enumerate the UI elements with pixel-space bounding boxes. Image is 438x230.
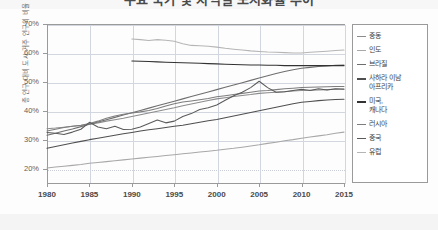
x-axis-tick-label: 2005 xyxy=(239,190,279,199)
x-axis-tick xyxy=(344,183,345,187)
y-axis-tick xyxy=(43,140,47,141)
legend-color-swatch xyxy=(357,78,366,80)
y-axis-tick xyxy=(43,169,47,170)
legend-item-label: 브라질 xyxy=(369,59,387,68)
legend-item[interactable]: 미국, 캐나다 xyxy=(357,96,427,114)
x-axis-tick-label: 2010 xyxy=(282,190,322,199)
legend-item-label: 사하라 이남 아프리카 xyxy=(369,73,401,91)
x-axis-tick xyxy=(217,183,218,187)
legend-item-label: 인도 xyxy=(369,45,381,54)
x-axis-tick-label: 2015 xyxy=(324,190,364,199)
legend-item[interactable]: 유럽 xyxy=(357,147,427,156)
series-layer xyxy=(47,24,344,183)
legend-item-label: 미국, 캐나다 xyxy=(369,96,387,114)
x-axis-tick-label: 1995 xyxy=(154,190,194,199)
chart-container: 주요 국가 및 지역별 도시화율 추이 총 인구 대비 도시 거주 인구의 비율… xyxy=(0,0,438,230)
series-line xyxy=(47,132,344,168)
legend-item[interactable]: 러시아 xyxy=(357,119,427,128)
gridline-vertical xyxy=(345,25,346,184)
y-axis-tick-label: 70% xyxy=(5,19,39,28)
legend-color-swatch xyxy=(357,50,366,51)
x-axis-tick xyxy=(302,183,303,187)
y-axis-tick-label: 20% xyxy=(5,164,39,173)
y-axis-tick-label: 50% xyxy=(5,77,39,86)
x-axis-tick-label: 2000 xyxy=(197,190,237,199)
series-line xyxy=(47,81,344,134)
legend-color-swatch xyxy=(357,124,366,125)
x-axis-tick xyxy=(259,183,260,187)
legend-item-label: 중동 xyxy=(369,31,381,40)
legend-color-swatch xyxy=(357,64,366,65)
legend-color-swatch xyxy=(357,152,366,153)
x-axis-tick-label: 1990 xyxy=(112,190,152,199)
legend-color-swatch xyxy=(357,36,366,37)
x-axis-tick xyxy=(89,183,90,187)
y-axis-tick xyxy=(43,82,47,83)
x-axis-tick-label: 1980 xyxy=(27,190,67,199)
x-axis-tick-label: 1985 xyxy=(69,190,109,199)
y-axis-tick-label: 40% xyxy=(5,106,39,115)
y-axis-tick-label: 60% xyxy=(5,48,39,57)
legend-color-swatch xyxy=(357,138,366,139)
series-line xyxy=(132,39,344,53)
x-axis-tick xyxy=(47,183,48,187)
legend-item[interactable]: 인도 xyxy=(357,45,427,54)
y-axis-tick xyxy=(43,111,47,112)
chart-title: 주요 국가 및 지역별 도시화율 추이 xyxy=(0,0,438,8)
chart-title-strip: 주요 국가 및 지역별 도시화율 추이 xyxy=(0,0,438,9)
legend-item-label: 중국 xyxy=(369,133,381,142)
series-line xyxy=(132,61,344,66)
y-axis-tick xyxy=(43,53,47,54)
legend-item[interactable]: 중국 xyxy=(357,133,427,142)
legend-item[interactable]: 사하라 이남 아프리카 xyxy=(357,73,427,91)
x-axis-line xyxy=(47,183,345,184)
x-axis-tick xyxy=(174,183,175,187)
y-axis-tick xyxy=(43,24,47,25)
legend-item-label: 유럽 xyxy=(369,147,381,156)
legend-color-swatch xyxy=(357,101,366,103)
x-axis-tick xyxy=(132,183,133,187)
legend-item-label: 러시아 xyxy=(369,119,387,128)
legend-item[interactable]: 중동 xyxy=(357,31,427,40)
legend-item[interactable]: 브라질 xyxy=(357,59,427,68)
chart-legend: 중동인도브라질사하라 이남 아프리카미국, 캐나다러시아중국유럽 xyxy=(352,24,428,183)
y-axis-tick-label: 30% xyxy=(5,135,39,144)
bottom-band xyxy=(0,214,438,230)
